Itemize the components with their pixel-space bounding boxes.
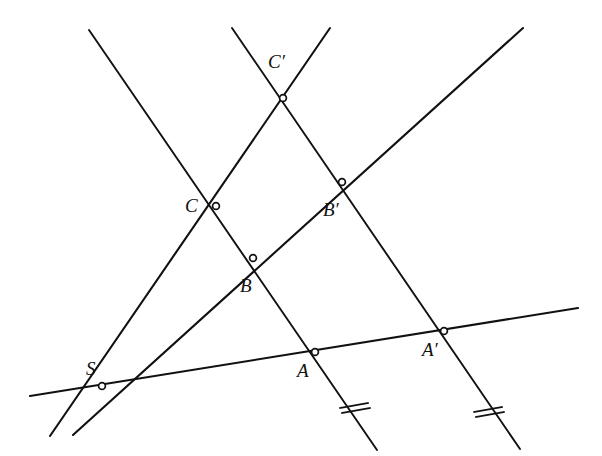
line-Cprime-Bprime-Aprime-extended: [232, 28, 520, 449]
point-label-C-prime: C′: [268, 52, 285, 71]
congruence-tick-on-segment-Aprime: [473, 407, 504, 417]
point-label-S: S: [86, 359, 96, 378]
vertex-dot-B-prime: [339, 179, 346, 186]
vertex-dot-A: [312, 349, 319, 356]
vertex-dot-A-prime: [441, 328, 448, 335]
geometry-figure: S A B C A′ B′ C′: [0, 0, 602, 456]
construction-lines: [30, 28, 578, 450]
vertex-dot-B: [250, 255, 257, 262]
vertex-dot-C-prime: [280, 95, 287, 102]
point-label-A: A: [297, 361, 309, 380]
vertex-dot-S: [99, 383, 106, 390]
figure-canvas: [0, 0, 602, 456]
tick-stroke: [341, 408, 371, 413]
point-label-B-prime: B′: [323, 200, 339, 219]
tick-marks: [339, 403, 504, 417]
point-label-B: B: [240, 276, 252, 295]
point-label-C: C: [185, 196, 198, 215]
point-label-A-prime: A′: [422, 340, 438, 359]
tick-stroke: [475, 412, 505, 417]
congruence-tick-on-segment-A: [339, 403, 370, 413]
tick-stroke: [339, 403, 369, 408]
line-C-B-A-extended: [89, 30, 377, 450]
transversal-through-S-A-Aprime: [30, 308, 578, 396]
vertex-dot-C: [213, 203, 220, 210]
vertex-dots: [99, 95, 448, 390]
tick-stroke: [473, 407, 503, 412]
